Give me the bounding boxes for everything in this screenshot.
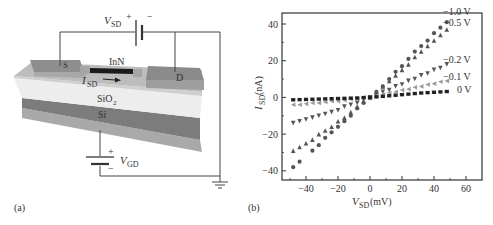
svg-text:SD: SD: [258, 95, 267, 105]
sio2-subscript: 2: [113, 99, 117, 107]
device-schematic-panel: V SD + − + − V GD S D InN I SD SiO 2 Si …: [0, 0, 245, 225]
legend-label: −1.0 V: [443, 6, 471, 17]
vgd-plus: +: [108, 146, 114, 157]
y-tick-label: −40: [262, 165, 278, 176]
svg-text:SD: SD: [359, 201, 369, 210]
ground-icon: [212, 176, 228, 188]
iv-chart: −40−200204060−40−2002040 −1.0 V−0.5 V−0.…: [245, 0, 493, 225]
source-label: S: [63, 60, 68, 70]
y-tick-label: −20: [262, 129, 278, 140]
inn-nanowire: [90, 68, 133, 74]
x-tick-label: −20: [330, 183, 346, 194]
chart-series: [291, 20, 449, 169]
device-schematic: V SD + − + − V GD S D InN I SD SiO 2 Si …: [0, 0, 245, 225]
x-tick-label: 40: [429, 183, 439, 194]
y-tick-label: 20: [268, 55, 278, 66]
y-axis-label: I SD (nA): [252, 76, 267, 111]
si-label: Si: [98, 109, 107, 120]
iv-chart-panel: −40−200204060−40−2002040 −1.0 V−0.5 V−0.…: [245, 0, 493, 225]
series-05V: [291, 27, 449, 153]
vsd-plus: +: [126, 11, 132, 22]
sio2-label: SiO: [97, 93, 113, 104]
legend-label: −0.5 V: [443, 17, 471, 28]
x-tick-label: 60: [461, 183, 471, 194]
x-axis-label: V SD (mV): [352, 195, 392, 210]
x-tick-label: 20: [397, 183, 407, 194]
source-drain-battery-icon: [136, 20, 142, 46]
x-tick-label: 0: [368, 183, 373, 194]
x-tick-label: −40: [298, 183, 314, 194]
vgd-minus: −: [108, 163, 114, 174]
panel-a-label: (a): [14, 202, 25, 214]
y-tick-label: 40: [268, 19, 278, 30]
legend-label: −0.1 V: [443, 71, 471, 82]
drain-label: D: [176, 72, 183, 83]
svg-text:(mV): (mV): [370, 196, 392, 208]
svg-text:(nA): (nA): [253, 76, 265, 95]
vsd-minus: −: [147, 11, 153, 22]
legend-label: 0 V: [457, 84, 472, 95]
chart-legend: −1.0 V−0.5 V−0.2 V−0.1 V0 V: [443, 6, 472, 95]
series-10V: [291, 20, 449, 169]
source-contact: [30, 60, 86, 72]
panel-b-label: (b): [248, 202, 260, 214]
series-02V: [291, 62, 449, 125]
inn-label: InN: [109, 56, 125, 67]
legend-label: −0.2 V: [443, 54, 471, 65]
y-tick-label: 0: [273, 92, 278, 103]
isd-subscript: SD: [87, 80, 97, 89]
series-01V: [291, 79, 449, 107]
vsd-subscript: SD: [111, 20, 121, 29]
vgd-subscript: GD: [127, 160, 139, 169]
